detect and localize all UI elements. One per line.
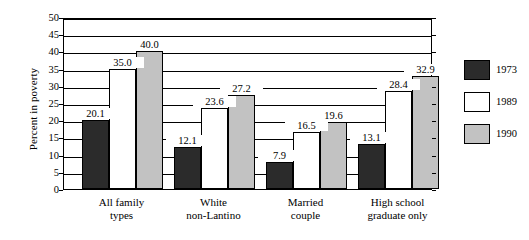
y-tick-label-40: 40 bbox=[37, 47, 59, 57]
x-group-label-line2: graduate only bbox=[332, 209, 463, 222]
x-group-label-line1: Married bbox=[288, 196, 323, 208]
legend-swatch-1973 bbox=[464, 60, 490, 80]
bar-value-1990-group-1: 40.0 bbox=[128, 39, 171, 50]
legend-label-1990: 1990 bbox=[496, 128, 517, 139]
y-tick-mark-left-40 bbox=[59, 52, 63, 53]
bar-1973-group-3 bbox=[266, 162, 293, 189]
bar-value-1973-group-3: 7.9 bbox=[258, 150, 301, 161]
bar-1989-group-2 bbox=[201, 108, 228, 189]
bar-1990-group-2 bbox=[228, 95, 255, 189]
y-tick-mark-right-40 bbox=[432, 52, 436, 53]
legend-label-1973: 1973 bbox=[496, 64, 517, 75]
bar-value-1973-group-4: 13.1 bbox=[350, 132, 393, 143]
y-tick-mark-right-10 bbox=[432, 156, 436, 157]
bar-1990-group-3 bbox=[320, 122, 347, 189]
y-tick-label-50: 50 bbox=[37, 13, 59, 23]
poverty-bar-chart: Percent in poverty 05101520253035404550 … bbox=[0, 0, 529, 240]
y-tick-label-25: 25 bbox=[37, 99, 59, 109]
y-tick-mark-left-45 bbox=[59, 35, 63, 36]
bar-value-1989-group-4: 28.4 bbox=[377, 79, 420, 90]
y-tick-label-0: 0 bbox=[37, 185, 59, 195]
bar-1990-group-1 bbox=[136, 51, 163, 189]
y-tick-mark-left-25 bbox=[59, 104, 63, 105]
x-group-label-line1: All family bbox=[99, 196, 145, 208]
y-tick-mark-left-0 bbox=[59, 190, 63, 191]
legend-label-1989: 1989 bbox=[496, 96, 517, 107]
y-tick-mark-left-30 bbox=[59, 87, 63, 88]
bar-value-1989-group-3: 16.5 bbox=[285, 120, 328, 131]
y-tick-label-5: 5 bbox=[37, 168, 59, 178]
y-tick-mark-left-5 bbox=[59, 173, 63, 174]
y-tick-label-10: 10 bbox=[37, 151, 59, 161]
bar-value-1989-group-2: 23.6 bbox=[193, 96, 236, 107]
bars-layer bbox=[64, 19, 431, 189]
bar-1973-group-4 bbox=[358, 144, 385, 189]
y-tick-mark-left-10 bbox=[59, 156, 63, 157]
bar-1973-group-1 bbox=[82, 120, 109, 189]
y-tick-label-30: 30 bbox=[37, 82, 59, 92]
y-tick-mark-right-30 bbox=[432, 87, 436, 88]
legend-swatch-1990 bbox=[464, 124, 490, 144]
legend-swatch-1989 bbox=[464, 92, 490, 112]
y-tick-mark-right-45 bbox=[432, 35, 436, 36]
bar-value-1990-group-3: 19.6 bbox=[312, 110, 355, 121]
y-tick-mark-right-15 bbox=[432, 138, 436, 139]
y-tick-mark-right-50 bbox=[432, 18, 436, 19]
bar-1973-group-2 bbox=[174, 147, 201, 189]
y-tick-mark-left-50 bbox=[59, 18, 63, 19]
bar-value-1973-group-2: 12.1 bbox=[166, 135, 209, 146]
bar-value-1973-group-1: 20.1 bbox=[74, 108, 117, 119]
y-tick-mark-right-5 bbox=[432, 173, 436, 174]
y-tick-mark-right-0 bbox=[432, 190, 436, 191]
bar-value-1989-group-1: 35.0 bbox=[101, 57, 144, 68]
y-tick-label-35: 35 bbox=[37, 65, 59, 75]
y-tick-mark-left-20 bbox=[59, 121, 63, 122]
y-tick-label-20: 20 bbox=[37, 116, 59, 126]
y-tick-mark-left-15 bbox=[59, 138, 63, 139]
y-tick-label-45: 45 bbox=[37, 30, 59, 40]
plot-area bbox=[63, 18, 432, 190]
x-group-label-line1: White bbox=[200, 196, 227, 208]
y-tick-mark-right-20 bbox=[432, 121, 436, 122]
y-tick-mark-left-35 bbox=[59, 70, 63, 71]
x-group-label-4: High schoolgraduate only bbox=[332, 196, 463, 222]
y-tick-mark-right-25 bbox=[432, 104, 436, 105]
bar-1989-group-1 bbox=[109, 69, 136, 189]
bar-value-1990-group-4: 32.9 bbox=[404, 64, 447, 75]
bar-value-1990-group-2: 27.2 bbox=[220, 83, 263, 94]
y-tick-label-15: 15 bbox=[37, 133, 59, 143]
x-group-label-line1: High school bbox=[371, 196, 424, 208]
